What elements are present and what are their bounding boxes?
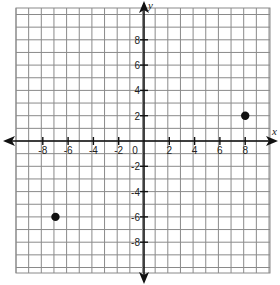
- y-tick-label: -2: [131, 161, 140, 172]
- y-tick-label: -8: [131, 237, 140, 248]
- x-tick-label: 2: [167, 145, 173, 156]
- y-tick-label: -6: [131, 212, 140, 223]
- y-tick-label: -4: [131, 187, 140, 198]
- coordinate-plane: x y -8-6-4-2024688642-2-4-6-8: [0, 0, 280, 285]
- y-tick-label: 2: [134, 111, 140, 122]
- y-axis-label: y: [147, 0, 153, 11]
- x-tick-label: -6: [64, 145, 73, 156]
- x-tick-label: -2: [114, 145, 123, 156]
- y-tick-label: 4: [134, 85, 140, 96]
- x-tick-label: 4: [192, 145, 198, 156]
- y-tick-label: 8: [134, 35, 140, 46]
- x-tick-label: -4: [89, 145, 98, 156]
- data-point: [241, 112, 249, 120]
- axes: x y: [3, 0, 278, 284]
- x-axis-label: x: [271, 125, 277, 137]
- x-tick-label: -8: [38, 145, 47, 156]
- x-tick-label: 8: [242, 145, 248, 156]
- data-point: [51, 213, 59, 221]
- x-tick-label: 0: [132, 145, 138, 156]
- x-tick-label: 6: [217, 145, 223, 156]
- y-tick-label: 6: [134, 60, 140, 71]
